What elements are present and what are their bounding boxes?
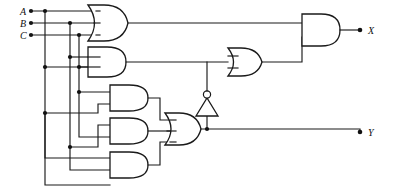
- and-gate-fifth-body: [110, 152, 148, 178]
- junction-a-tap-g2: [43, 65, 47, 69]
- input-label-C: C: [20, 30, 27, 41]
- and-gate-fourth: [110, 118, 176, 144]
- junction-a-tap-g3: [43, 111, 47, 115]
- and-gate-output: [302, 14, 360, 46]
- input-label-B: B: [20, 18, 26, 29]
- inverter: [196, 62, 218, 116]
- and-gate-fifth: [110, 142, 176, 178]
- inverter-bubble-icon: [203, 91, 210, 98]
- input-group-B: B: [20, 18, 100, 29]
- input-group-C: C: [20, 30, 100, 41]
- input-label-A: A: [19, 6, 27, 17]
- and-gate-second-body: [88, 47, 126, 77]
- wire-B-tap-g4: [70, 125, 110, 147]
- output-label-X: X: [367, 25, 375, 36]
- wire-A-tap-g5: [45, 113, 110, 158]
- wire-A-tap-g3: [45, 104, 110, 113]
- wire-vbus-B: [70, 23, 110, 170]
- junction-c-tap-g2: [77, 65, 81, 69]
- output-label-Y: Y: [368, 127, 375, 138]
- junction-dots: [43, 9, 81, 149]
- output-group-Y: Y: [358, 127, 375, 138]
- logic-circuit-diagram: A B C: [0, 0, 393, 192]
- junction-b-bus: [68, 21, 72, 25]
- input-group-A: A: [19, 6, 100, 17]
- output-terminal-Y: [358, 130, 363, 135]
- output-group-X: X: [358, 25, 375, 36]
- wire-or-right-to-and-out: [262, 37, 302, 62]
- or-gate-right-body: [228, 48, 262, 76]
- junction-a-bus: [43, 9, 47, 13]
- junction-c-tap-g3: [77, 90, 81, 94]
- or-gate-top: [88, 5, 302, 41]
- or-gate-lower-body: [165, 113, 201, 145]
- circuit-canvas: A B C: [0, 0, 393, 192]
- junction-b-tap-g2: [68, 55, 72, 59]
- junction-b-tap-g4: [68, 145, 72, 149]
- and-gate-output-body: [302, 14, 340, 46]
- output-terminal-X: [358, 28, 363, 33]
- or-gate-lower: [165, 113, 360, 145]
- and-gate-third-body: [110, 85, 148, 111]
- and-gate-fourth-body: [110, 118, 148, 144]
- junction-or-lower-out: [205, 127, 209, 131]
- junction-c-bus: [77, 33, 81, 37]
- inverter-triangle: [196, 98, 218, 116]
- or-gate-right: [228, 37, 302, 76]
- wire-or-lower-to-Y: [201, 129, 360, 132]
